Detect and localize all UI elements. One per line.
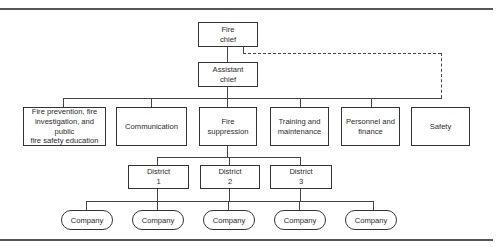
district-label: District 3 <box>289 167 312 187</box>
division-personnel-finance: Personnel and finance <box>341 107 400 146</box>
fire-chief-box: Fire chief <box>198 22 258 47</box>
company-label: Company <box>284 216 317 225</box>
dashed-link-to-safety <box>441 53 442 98</box>
drop-div-3 <box>227 98 228 107</box>
drop-div-2 <box>151 98 152 107</box>
company-1-node: Company <box>61 210 113 230</box>
company-bus <box>86 201 374 202</box>
drop-company-1 <box>86 201 87 210</box>
company-label: Company <box>142 216 175 225</box>
drop-company-4 <box>299 201 300 210</box>
fire-chief-label: Fire chief <box>220 25 236 45</box>
division-communication: Communication <box>116 107 187 146</box>
district-2-box: District 2 <box>200 165 260 189</box>
company-3-node: Company <box>203 210 255 230</box>
district-2-down <box>229 189 230 201</box>
drop-district-1 <box>157 157 158 165</box>
division-safety: Safety <box>411 107 470 146</box>
company-label: Company <box>71 216 104 225</box>
company-label: Company <box>213 216 246 225</box>
division-label: Communication <box>125 122 178 132</box>
company-5-node: Company <box>345 210 397 230</box>
division-bus <box>63 98 442 99</box>
division-label: Personnel and finance <box>346 117 395 137</box>
drop-company-3 <box>228 201 229 210</box>
assistant-chief-box: Assistant chief <box>198 62 258 87</box>
company-2-node: Company <box>132 210 184 230</box>
division-training-maintenance: Training and maintenance <box>270 107 329 146</box>
drop-div-1 <box>63 98 64 107</box>
district-label: District 2 <box>218 167 241 187</box>
company-4-node: Company <box>274 210 326 230</box>
company-label: Company <box>355 216 388 225</box>
drop-div-5 <box>371 98 372 107</box>
division-label: Training and maintenance <box>278 117 321 137</box>
division-label: Safety <box>430 122 452 132</box>
district-1-box: District 1 <box>128 165 189 189</box>
assistant-chief-label: Assistant chief <box>213 65 244 85</box>
district-3-down <box>300 189 301 201</box>
district-1-down <box>157 189 158 201</box>
drop-company-5 <box>373 201 374 210</box>
division-fire-suppression: Fire suppression <box>199 107 257 146</box>
bottom-rule <box>0 239 493 241</box>
connector-assistant-bus <box>227 87 228 98</box>
drop-district-2 <box>229 157 230 165</box>
division-fire-prevention: Fire prevention, fire investigation, and… <box>23 107 106 146</box>
district-label: District 1 <box>147 167 170 187</box>
connector-chief-assistant <box>227 47 228 62</box>
division-label: Fire prevention, fire investigation, and… <box>24 107 105 146</box>
drop-company-2 <box>157 201 158 210</box>
dashed-link-horizontal <box>243 53 441 54</box>
connector-suppression-districts <box>227 146 228 157</box>
drop-district-3 <box>300 157 301 165</box>
division-label: Fire suppression <box>208 117 249 137</box>
drop-div-4 <box>300 98 301 107</box>
district-3-box: District 3 <box>270 165 332 189</box>
top-rule <box>0 8 493 10</box>
